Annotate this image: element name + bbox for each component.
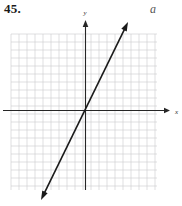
line-arrowhead-upper bbox=[121, 22, 128, 31]
x-axis-label: x bbox=[174, 108, 179, 116]
y-axis-label: y bbox=[82, 9, 87, 17]
graph-figure: 45. a y x bbox=[0, 0, 182, 206]
x-axis-arrowhead bbox=[164, 108, 170, 114]
axes bbox=[3, 20, 170, 190]
line-arrowhead-lower bbox=[41, 191, 48, 200]
coordinate-plane: y x bbox=[0, 0, 182, 206]
y-axis-arrowhead bbox=[83, 20, 89, 27]
